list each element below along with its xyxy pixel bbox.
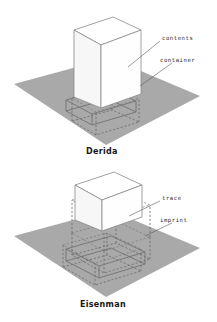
- callout-imprint: imprint: [160, 218, 187, 224]
- callout-container: container: [160, 58, 195, 64]
- caption-eisenman: Eisenman: [80, 301, 126, 309]
- callout-trace: trace: [162, 196, 182, 202]
- diagram-canvas: [0, 0, 217, 322]
- caption-derrida: Derida: [86, 148, 118, 156]
- callout-contents: contents: [162, 36, 193, 42]
- panel-eisenman: [14, 172, 200, 297]
- figure-root: contents container Derida trace imprint …: [0, 0, 217, 322]
